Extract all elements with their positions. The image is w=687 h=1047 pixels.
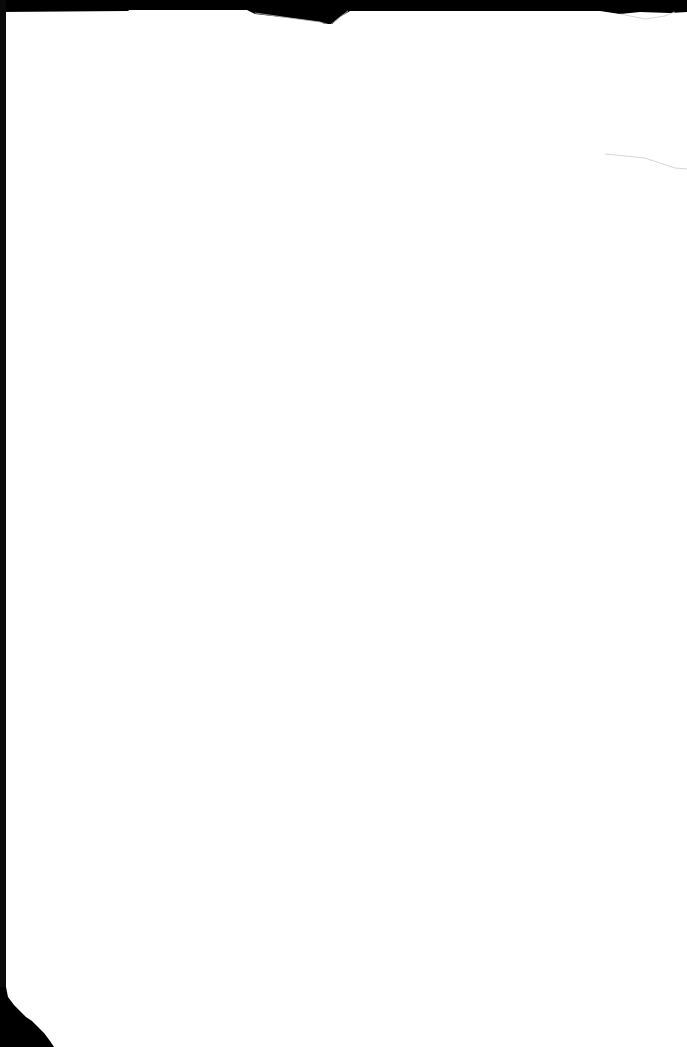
torn-corner [0,987,60,1047]
blank-scanned-page [5,10,687,1047]
left-scan-edge [0,0,6,1047]
top-scan-edge [0,0,687,24]
paper-crease [605,150,687,175]
page-content [45,50,647,1007]
